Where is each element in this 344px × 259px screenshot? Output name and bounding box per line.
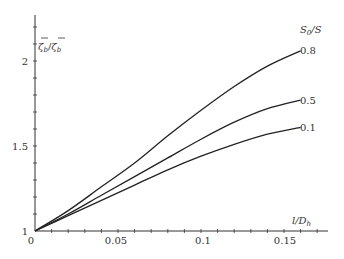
x-tick-label: 0.05 bbox=[105, 235, 127, 246]
curve-label-0.5: 0.5 bbox=[300, 95, 316, 106]
curve-label-0.8: 0.8 bbox=[300, 45, 316, 56]
legend-title: S0/S bbox=[300, 24, 322, 37]
axes bbox=[33, 15, 328, 233]
y-axis-label: ζb/ζb bbox=[38, 41, 62, 54]
x-tick-label: 0 bbox=[28, 235, 34, 246]
y-tick-label: 1.5 bbox=[12, 141, 28, 152]
curve-label-0.1: 0.1 bbox=[300, 122, 316, 133]
x-tick-label: 0.1 bbox=[195, 235, 211, 246]
y-tick-label: 2 bbox=[22, 56, 28, 67]
curve-0.1 bbox=[35, 127, 301, 231]
curve-0.8 bbox=[35, 51, 301, 231]
curve-0.5 bbox=[35, 100, 301, 231]
y-tick-label: 1 bbox=[22, 226, 28, 237]
curves bbox=[35, 51, 301, 231]
x-axis-label: l/Dh bbox=[292, 215, 311, 228]
x-tick-label: 0.15 bbox=[274, 235, 296, 246]
chart: ζb/ζb l/Dh S0/S 0 0.05 0.1 0.15 1 1.5 2 … bbox=[0, 0, 344, 259]
